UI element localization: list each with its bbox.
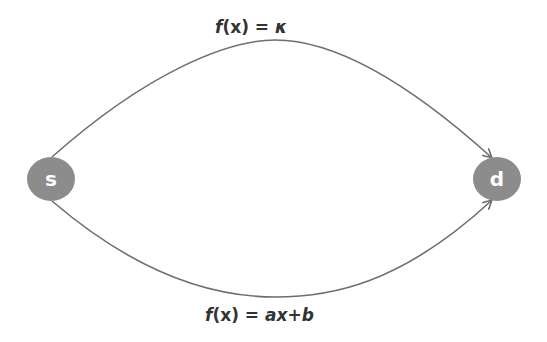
- function-arg: (x) =: [222, 17, 275, 37]
- node-s: s: [27, 157, 75, 201]
- network-diagram: s d: [0, 0, 547, 342]
- node-d-label: d: [490, 167, 504, 191]
- function-expr: κ: [275, 17, 287, 37]
- upper-edge: [52, 40, 491, 157]
- lower-edge: [52, 201, 491, 297]
- lower-edge-label: f(x) = ax+b: [205, 305, 314, 325]
- function-arg: (x) =: [212, 305, 265, 325]
- node-s-label: s: [45, 167, 57, 191]
- node-d: d: [473, 157, 521, 201]
- function-expr: ax+b: [265, 305, 314, 325]
- upper-edge-label: f(x) = κ: [215, 17, 287, 37]
